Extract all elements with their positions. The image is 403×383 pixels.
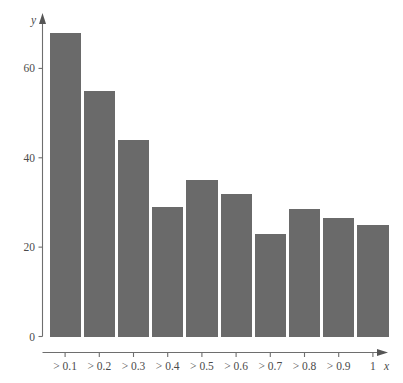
y-tick-label: 0 <box>29 331 35 343</box>
bar <box>50 33 81 337</box>
x-axis-label: x <box>383 360 390 372</box>
x-tick-label: > 0.4 <box>156 360 180 372</box>
x-tick-label: > 0.7 <box>258 360 282 372</box>
bar-chart-figure: y x 0204060 > 0.1> 0.2> 0.3> 0.4> 0.5> 0… <box>0 0 403 383</box>
x-tick-label: 1 <box>370 360 376 372</box>
y-axis-label: y <box>30 14 37 27</box>
bar <box>357 225 388 337</box>
bar <box>289 209 320 336</box>
bar <box>255 234 286 337</box>
x-tick-label: > 0.6 <box>224 360 248 372</box>
bar <box>186 180 217 336</box>
y-tick-label: 20 <box>24 241 36 253</box>
y-tick-label: 40 <box>24 152 36 164</box>
x-tick-label: > 0.9 <box>327 360 351 372</box>
bar <box>323 218 354 336</box>
x-tick-label: > 0.2 <box>87 360 111 372</box>
x-tick-label: > 0.3 <box>122 360 146 372</box>
x-tick-label: > 0.8 <box>293 360 317 372</box>
bar <box>152 207 183 337</box>
x-tick-label: > 0.5 <box>190 360 214 372</box>
chart-canvas: y x 0204060 > 0.1> 0.2> 0.3> 0.4> 0.5> 0… <box>0 0 403 383</box>
x-tick-label: > 0.1 <box>53 360 77 372</box>
bar <box>84 91 115 337</box>
y-tick-label: 60 <box>24 62 36 74</box>
bar <box>118 140 149 337</box>
bar <box>221 194 252 337</box>
